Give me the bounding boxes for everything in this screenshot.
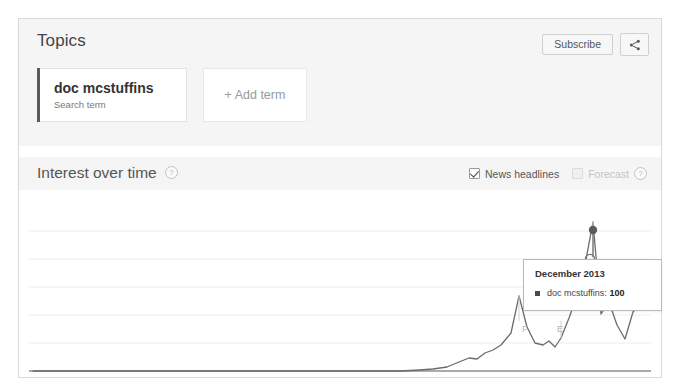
share-button[interactable]	[620, 33, 649, 56]
tooltip-series-label: doc mcstuffins:	[547, 288, 607, 298]
interest-over-time-title: Interest over time?	[37, 164, 178, 182]
search-term-sublabel: Search term	[54, 99, 106, 110]
xtick-2005: 2005	[100, 376, 118, 378]
tooltip-series-swatch	[535, 291, 540, 296]
google-trends-page: Topics Subscribe doc mcstuffins	[0, 0, 679, 392]
toggle-news-headlines[interactable]: News headlines	[469, 168, 559, 180]
xtick-2009: 2009	[335, 376, 353, 378]
topics-actions: Subscribe	[542, 33, 649, 56]
forecast-label: Forecast	[588, 168, 629, 180]
share-icon	[629, 39, 641, 51]
topics-title: Topics	[37, 31, 86, 51]
news-marker-E[interactable]: E	[557, 324, 563, 334]
iot-title-text: Interest over time	[37, 164, 157, 181]
chart-x-tick-labels: 2005 2007 2009 2011 2013	[100, 376, 588, 378]
topics-section: Topics Subscribe doc mcstuffins	[19, 19, 661, 146]
term-accent-bar	[37, 68, 40, 122]
chart-tooltip: December 2013 doc mcstuffins: 100	[523, 259, 662, 311]
add-term-button[interactable]: + Add term	[203, 68, 307, 122]
search-term-card[interactable]: doc mcstuffins Search term	[37, 68, 187, 122]
forecast-help-icon[interactable]: ?	[634, 167, 647, 180]
search-term-name: doc mcstuffins	[54, 80, 154, 96]
forecast-checkbox[interactable]	[572, 168, 583, 179]
tooltip-series-row: doc mcstuffins: 100	[535, 288, 624, 298]
tooltip-date: December 2013	[535, 268, 605, 279]
interest-over-time-header: Interest over time? News headlines Forec…	[19, 157, 661, 190]
xtick-2013: 2013	[570, 376, 588, 378]
trends-panel: Topics Subscribe doc mcstuffins	[18, 18, 662, 378]
news-marker-F[interactable]: F	[522, 324, 528, 334]
tooltip-series-value: 100	[609, 288, 624, 298]
search-terms-row: doc mcstuffins Search term + Add term	[37, 68, 307, 122]
toggle-forecast[interactable]: Forecast ?	[572, 167, 647, 180]
news-headlines-label: News headlines	[485, 168, 559, 180]
subscribe-button[interactable]: Subscribe	[542, 34, 613, 56]
help-icon[interactable]: ?	[165, 166, 178, 179]
news-headlines-checkbox[interactable]	[469, 168, 480, 179]
xtick-2007: 2007	[218, 376, 236, 378]
chart-toggles: News headlines Forecast ?	[469, 167, 647, 180]
xtick-2011: 2011	[453, 376, 471, 378]
tooltip-series-text: doc mcstuffins: 100	[547, 288, 624, 298]
